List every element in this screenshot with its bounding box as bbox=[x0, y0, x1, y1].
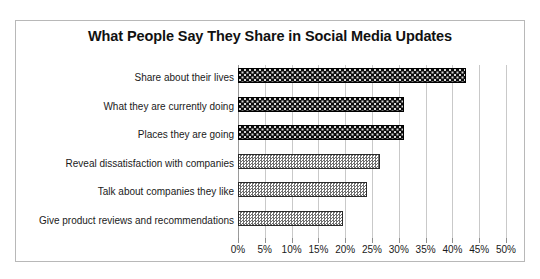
x-axis-tick-label: 15% bbox=[303, 244, 333, 255]
gridline bbox=[426, 65, 427, 238]
axis-tick bbox=[292, 238, 293, 243]
gridline bbox=[372, 65, 373, 238]
axis-tick bbox=[506, 238, 507, 243]
axis-tick bbox=[426, 238, 427, 243]
bar bbox=[238, 125, 404, 140]
category-label: Talk about companies they like bbox=[98, 184, 234, 199]
x-axis-tick-label: 45% bbox=[464, 244, 494, 255]
category-label: Places they are going bbox=[138, 127, 234, 142]
axis-tick bbox=[452, 238, 453, 243]
plot-area: 0%5%10%15%20%25%30%35%40%45%50%Share abo… bbox=[16, 21, 524, 261]
category-label: Reveal dissatisfaction with companies bbox=[66, 156, 234, 171]
category-label: Give product reviews and recommendations bbox=[39, 213, 234, 228]
x-axis-tick-label: 35% bbox=[411, 244, 441, 255]
gridline bbox=[479, 65, 480, 238]
axis-tick bbox=[479, 238, 480, 243]
bar bbox=[238, 97, 404, 112]
x-axis-tick-label: 40% bbox=[437, 244, 467, 255]
axis-tick bbox=[372, 238, 373, 243]
x-axis-tick-label: 25% bbox=[357, 244, 387, 255]
bar bbox=[238, 211, 343, 226]
gridline bbox=[399, 65, 400, 238]
bar bbox=[238, 154, 380, 169]
axis-tick bbox=[265, 238, 266, 243]
axis-tick bbox=[318, 238, 319, 243]
gridline bbox=[506, 65, 507, 238]
category-label: Share about their lives bbox=[134, 70, 234, 85]
x-axis-tick-label: 10% bbox=[277, 244, 307, 255]
x-axis-tick-label: 20% bbox=[330, 244, 360, 255]
bar bbox=[238, 182, 367, 197]
axis-tick bbox=[399, 238, 400, 243]
bar bbox=[238, 68, 466, 83]
x-axis-tick-label: 0% bbox=[223, 244, 253, 255]
gridline bbox=[452, 65, 453, 238]
gridline bbox=[345, 65, 346, 238]
axis-tick bbox=[238, 238, 239, 243]
x-axis-tick-label: 50% bbox=[491, 244, 521, 255]
axis-tick bbox=[345, 238, 346, 243]
x-axis-tick-label: 5% bbox=[250, 244, 280, 255]
category-label: What they are currently doing bbox=[103, 99, 234, 114]
chart-frame: What People Say They Share in Social Med… bbox=[15, 20, 525, 262]
x-axis-tick-label: 30% bbox=[384, 244, 414, 255]
